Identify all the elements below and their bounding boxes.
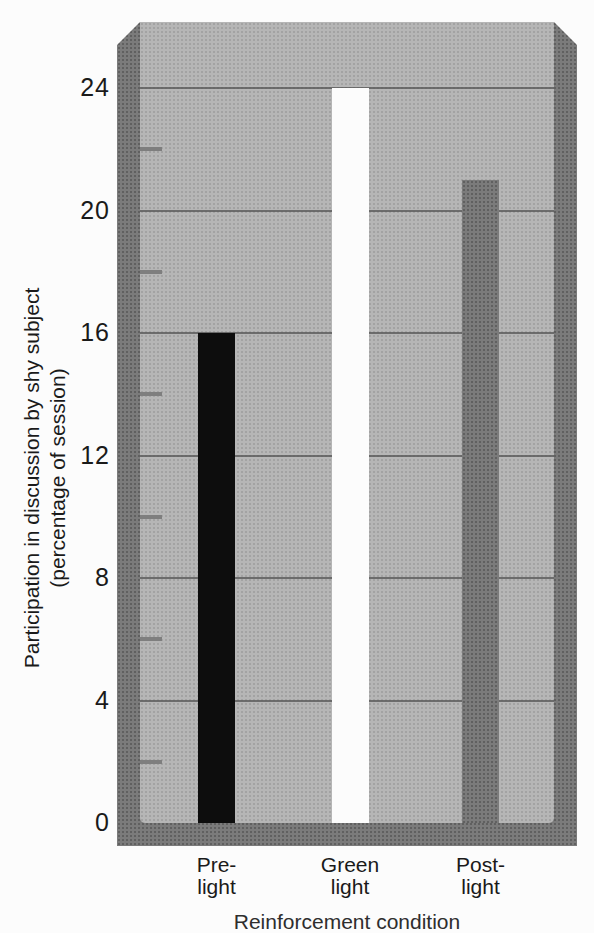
plot-area [140, 22, 554, 823]
chart-frame [117, 22, 577, 846]
y-axis-label-line1: Participation in discussion by shy subje… [20, 288, 43, 669]
y-minor-tick-6 [140, 637, 162, 641]
y-minor-tick-14 [140, 392, 162, 396]
y-axis-label: Participation in discussion by shy subje… [19, 208, 71, 748]
x-label-post-light: Post- light [406, 854, 556, 898]
y-axis-label-line2: (percentage of session) [46, 368, 69, 587]
y-minor-tick-18 [140, 270, 162, 274]
y-tick-label-16: 16 [80, 318, 110, 347]
x-label-green-light: Green light [275, 854, 425, 898]
x-label-pre-light: Pre- light [142, 854, 292, 898]
y-tick-label-20: 20 [80, 195, 110, 224]
y-minor-tick-10 [140, 515, 162, 519]
bar-post-light [462, 180, 499, 823]
y-minor-tick-2 [140, 760, 162, 764]
y-minor-tick-22 [140, 147, 162, 151]
bar-green-light [332, 88, 369, 823]
y-tick-label-0: 0 [95, 808, 110, 837]
x-axis-caption: Reinforcement condition [117, 910, 577, 933]
y-tick-label-4: 4 [95, 685, 110, 714]
y-tick-label-8: 8 [95, 563, 110, 592]
bar-pre-light [198, 333, 235, 823]
y-tick-label-12: 12 [80, 440, 110, 469]
y-tick-label-24: 24 [80, 73, 110, 102]
